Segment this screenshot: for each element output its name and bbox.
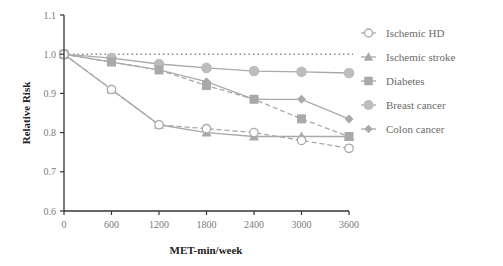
legend-item-breast-cancer: Breast cancer (361, 99, 446, 111)
chart: 0.60.70.80.91.01.10600120018002400300036… (0, 0, 503, 266)
legend-item-colon-cancer: Colon cancer (361, 123, 445, 135)
legend-label: Diabetes (386, 75, 424, 87)
x-tick-label: 3000 (292, 219, 312, 230)
legend-item-ischemic-stroke: Ischemic stroke (361, 51, 455, 63)
legend-label: Breast cancer (386, 99, 446, 111)
circle-marker-icon (249, 66, 260, 77)
x-tick-label: 600 (104, 219, 119, 230)
legend-label: Ischemic stroke (386, 51, 455, 63)
x-tick-label: 0 (62, 219, 67, 230)
y-tick-label: 0.7 (44, 166, 57, 177)
series-layer (59, 49, 355, 153)
y-tick-label: 1.1 (44, 10, 57, 21)
open-circle-marker-icon (297, 136, 305, 144)
diamond-marker-icon (345, 114, 354, 123)
open-circle-marker-icon (202, 124, 210, 132)
circle-marker-icon (344, 68, 355, 79)
y-tick-label: 0.9 (44, 88, 57, 99)
open-circle-marker-icon (345, 144, 353, 152)
y-tick-label: 0.8 (44, 127, 57, 138)
x-axis-title: MET-min/week (170, 244, 244, 256)
legend-item-diabetes: Diabetes (361, 75, 424, 87)
axes: 0.60.70.80.91.01.10600120018002400300036… (44, 10, 360, 231)
x-tick-label: 1800 (197, 219, 217, 230)
square-marker-icon (364, 77, 373, 86)
series-breast-cancer (59, 49, 355, 78)
diamond-marker-icon (364, 125, 373, 134)
open-circle-marker-icon (155, 121, 163, 129)
y-tick-label: 1.0 (44, 49, 57, 60)
circle-marker-icon (296, 67, 307, 78)
diamond-marker-icon (297, 95, 306, 104)
x-tick-label: 3600 (339, 219, 359, 230)
legend-item-ischemic-hd: Ischemic HD (361, 27, 444, 39)
circle-marker-icon (363, 100, 373, 110)
legend: Ischemic HDIschemic strokeDiabetesBreast… (361, 27, 455, 135)
y-axis-title: Relative Risk (20, 81, 32, 145)
open-circle-marker-icon (250, 128, 258, 136)
x-tick-label: 2400 (244, 219, 264, 230)
y-tick-label: 0.6 (44, 206, 57, 217)
square-marker-icon (297, 114, 306, 123)
legend-label: Ischemic HD (386, 27, 444, 39)
open-circle-marker-icon (107, 85, 115, 93)
x-tick-label: 1200 (149, 219, 169, 230)
open-circle-marker-icon (365, 29, 373, 37)
legend-label: Colon cancer (386, 123, 445, 135)
circle-marker-icon (201, 63, 212, 74)
